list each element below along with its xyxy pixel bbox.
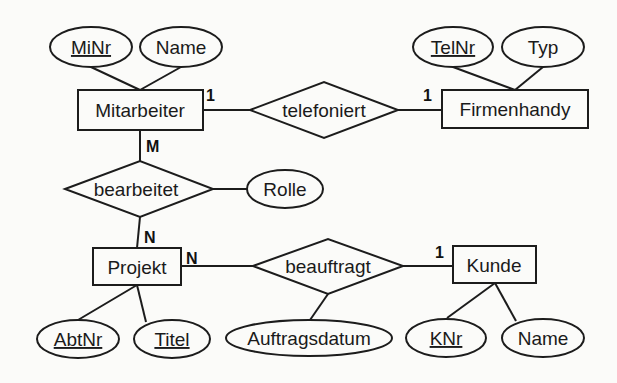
cardinality-firmenhandy-telefoniert: 1 [423,87,432,104]
attribute-label: Titel [154,329,189,350]
attribute-label: MiNr [71,37,112,58]
relationship-telefoniert: telefoniert [250,82,398,138]
entity-label: Mitarbeiter [95,100,185,121]
relationship-beauftragt: beauftragt [253,239,403,294]
entity-mitarbeiter: Mitarbeiter [78,90,203,130]
attribute-mitarbeiter-name: Name [140,27,222,67]
relationship-bearbeitet: bearbeitet [65,161,213,217]
entity-label: Kunde [467,255,522,276]
entity-firmenhandy: Firmenhandy [442,90,588,128]
entity-label: Firmenhandy [460,99,571,120]
entity-label: Projekt [107,257,167,278]
relationship-label: telefoniert [282,100,366,121]
attribute-typ: Typ [502,27,584,67]
attribute-label: TelNr [431,37,476,58]
cardinality-projekt-beauftragt: N [186,250,198,267]
attribute-label: AbtNr [54,329,103,350]
relationship-label: bearbeitet [94,179,179,200]
attribute-label: KNr [430,328,463,349]
attribute-titel: Titel [134,320,210,358]
attribute-kunde-name: Name [502,319,584,357]
attribute-rolle: Rolle [247,170,323,208]
attribute-telnr: TelNr [413,27,493,67]
attribute-label: Name [518,328,569,349]
attribute-label: Auftragsdatum [247,328,371,349]
cardinality-mitarbeiter-bearbeitet: M [146,138,159,155]
attribute-knr: KNr [406,319,486,357]
attribute-auftragsdatum: Auftragsdatum [226,320,392,356]
entity-projekt: Projekt [93,248,181,285]
cardinality-kunde-beauftragt: 1 [435,244,444,261]
attribute-minr: MiNr [50,27,132,67]
relationship-label: beauftragt [285,256,371,277]
cardinality-projekt-bearbeitet: N [144,229,156,246]
attribute-label: Typ [528,37,559,58]
attribute-label: Rolle [263,179,306,200]
entity-kunde: Kunde [453,246,536,283]
attribute-abtnr: AbtNr [37,320,119,358]
attribute-label: Name [156,37,207,58]
cardinality-mitarbeiter-telefoniert: 1 [206,87,215,104]
er-diagram: MiNr Name Mitarbeiter 1 telefoniert 1 Te… [0,0,617,383]
